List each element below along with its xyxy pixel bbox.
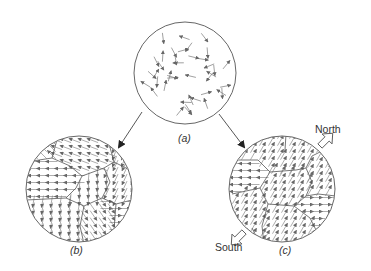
panel-a-label: (a) (178, 133, 191, 144)
panel-a-circle (134, 22, 236, 124)
random-moment-arrows (141, 33, 231, 116)
north-label: North (315, 124, 341, 135)
panel-b-label: (b) (70, 245, 83, 256)
south-label: South (215, 242, 242, 253)
panel-c-label: (c) (279, 245, 291, 256)
arrow-a-to-c (219, 114, 244, 147)
arrow-a-to-b (119, 112, 142, 147)
panel-b-random-domains (19, 128, 140, 249)
magnetic-domain-diagram: (a) (b) (c) North South (0, 0, 371, 271)
domain-arrows-b (19, 128, 140, 249)
panel-a-random-moments (134, 22, 236, 124)
